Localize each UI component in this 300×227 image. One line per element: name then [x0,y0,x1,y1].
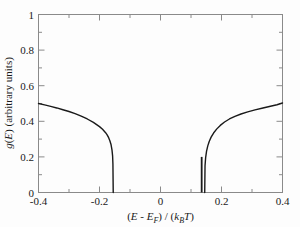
x-tick-label-3: 0.2 [215,195,229,207]
y-tick-label-0: 0 [29,187,35,199]
chart-svg: -0.4 -0.2 0 0.2 0.4 0 0.2 0.4 0.6 0.8 1 … [0,0,300,227]
x-title-minus: - [138,210,147,222]
y-tick-label-2: 0.4 [20,115,34,127]
x-tick-label-4: 0.4 [276,195,290,207]
y-tick-label-1: 0.2 [20,151,34,163]
x-tick-label-2: 0 [158,195,164,207]
x-title-close2: ) [190,210,194,223]
chart-figure: -0.4 -0.2 0 0.2 0.4 0 0.2 0.4 0.6 0.8 1 … [0,0,300,227]
x-title-slash: / [162,210,171,222]
x-tick-label-1: -0.2 [91,195,108,207]
y-tick-label-5: 1 [29,9,35,21]
y-axis-title: g(E) (arbitrary units) [2,57,15,149]
y-tick-label-3: 0.6 [20,80,34,92]
y-tick-label-4: 0.8 [20,44,34,56]
y-title-units: (arbitrary units) [2,57,15,129]
